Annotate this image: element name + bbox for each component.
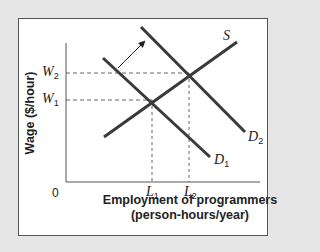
- d1-label: D1: [214, 152, 229, 169]
- origin-label: 0: [52, 186, 59, 200]
- x-axis-title-line2: (person-hours/year): [95, 208, 282, 223]
- w2-label: W2: [42, 64, 59, 81]
- w1-label: W1: [42, 91, 59, 108]
- x-axis-title: Employment of programmers (person-hours/…: [95, 193, 282, 223]
- demand-shift-arrow: [118, 42, 144, 68]
- d2-label: D2: [248, 129, 263, 146]
- y-axis-title: Wage ($/hour): [23, 72, 37, 155]
- x-axis-title-line1: Employment of programmers: [95, 193, 282, 208]
- supply-label: S: [223, 28, 230, 44]
